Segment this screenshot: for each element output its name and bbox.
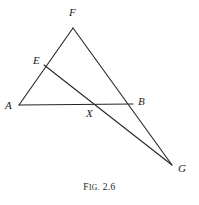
segments-group: [19, 28, 172, 165]
segment-E-G: [44, 65, 172, 165]
segment-F-G: [73, 28, 172, 165]
caption-number: 2.6: [103, 182, 116, 192]
segment-A-B: [19, 104, 133, 105]
caption-smallcaps: IG.: [89, 183, 100, 192]
figure-container: F E A B X G FIG. 2.6: [0, 0, 199, 205]
vertex-label-E: E: [33, 55, 40, 66]
vertex-label-A: A: [5, 100, 12, 111]
vertex-label-F: F: [69, 7, 76, 18]
vertex-label-G: G: [178, 163, 186, 174]
vertex-label-B: B: [138, 96, 145, 107]
geometry-diagram: [0, 0, 199, 205]
figure-caption: FIG. 2.6: [0, 182, 199, 192]
vertex-label-X: X: [86, 108, 93, 119]
